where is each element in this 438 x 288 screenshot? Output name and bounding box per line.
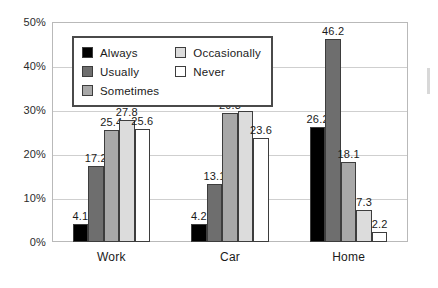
legend-swatch-icon xyxy=(82,85,93,96)
legend-swatch-icon xyxy=(82,47,93,58)
legend-item-never[interactable]: Never xyxy=(175,63,261,80)
bar-value-label: 4.2 xyxy=(191,210,207,222)
bar-slot: 18.1 xyxy=(341,22,357,242)
bar-car-always[interactable] xyxy=(191,224,207,242)
bar-value-label: 7.3 xyxy=(356,196,372,208)
bar-value-label: 23.6 xyxy=(250,124,272,136)
legend-swatch-icon xyxy=(175,66,186,77)
y-tick-label: 40% xyxy=(23,60,46,72)
bar-car-sometimes[interactable] xyxy=(222,113,238,242)
bar-chart: 0%10%20%30%40%50% 4.117.225.427.825.64.2… xyxy=(0,0,438,288)
bar-slot: 7.3 xyxy=(356,22,372,242)
bar-work-always[interactable] xyxy=(73,224,89,242)
bar-home-occasionally[interactable] xyxy=(356,210,372,242)
bar-work-occasionally[interactable] xyxy=(119,120,135,242)
y-tick-label: 0% xyxy=(30,236,46,248)
legend-swatch-icon xyxy=(82,66,93,77)
legend-item-always[interactable]: Always xyxy=(82,44,159,61)
bar-car-never[interactable] xyxy=(253,138,269,242)
legend-item-usually[interactable]: Usually xyxy=(82,63,159,80)
legend-label: Usually xyxy=(100,66,139,78)
bar-value-label: 4.1 xyxy=(72,210,88,222)
x-category-label-car: Car xyxy=(220,250,240,264)
legend-label: Sometimes xyxy=(100,85,159,97)
legend-label: Occasionally xyxy=(193,47,261,59)
x-category-label-work: Work xyxy=(97,250,126,264)
legend-item-occasionally[interactable]: Occasionally xyxy=(175,44,261,61)
y-axis: 0%10%20%30%40%50% xyxy=(0,22,46,242)
scan-artifact xyxy=(427,68,430,94)
legend: AlwaysUsuallySometimesOccasionallyNever xyxy=(72,36,273,107)
bar-work-sometimes[interactable] xyxy=(104,130,120,242)
bar-slot: 2.2 xyxy=(372,22,388,242)
y-tick-label: 50% xyxy=(23,16,46,28)
bar-work-usually[interactable] xyxy=(88,166,104,242)
bar-work-never[interactable] xyxy=(135,129,151,242)
bar-value-label: 25.6 xyxy=(131,115,153,127)
y-tick-label: 20% xyxy=(23,148,46,160)
bar-value-label: 2.2 xyxy=(372,218,388,230)
bar-group-home: 26.246.218.17.32.2 xyxy=(310,22,388,242)
bar-home-always[interactable] xyxy=(310,127,326,242)
bar-slot: 46.2 xyxy=(325,22,341,242)
y-tick-label: 10% xyxy=(23,192,46,204)
y-tick-label: 30% xyxy=(23,104,46,116)
bar-slot: 26.2 xyxy=(310,22,326,242)
legend-label: Never xyxy=(193,66,225,78)
bar-home-never[interactable] xyxy=(372,232,388,242)
x-axis: WorkCarHome xyxy=(52,250,408,274)
bar-home-usually[interactable] xyxy=(325,39,341,242)
bar-home-sometimes[interactable] xyxy=(341,162,357,242)
legend-label: Always xyxy=(100,47,138,59)
legend-item-sometimes[interactable]: Sometimes xyxy=(82,82,159,99)
x-category-label-home: Home xyxy=(332,250,365,264)
bar-car-usually[interactable] xyxy=(207,184,223,242)
legend-swatch-icon xyxy=(175,47,186,58)
